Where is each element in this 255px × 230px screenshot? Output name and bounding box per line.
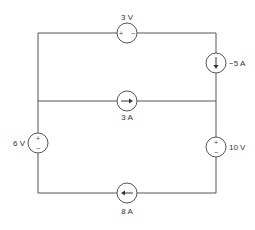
current-source-3a: 3 A: [117, 91, 137, 122]
circuit-diagram: + − 3 V −5 A 3 A + − 6 V + − 10 V: [0, 0, 255, 230]
label-neg5a: −5 A: [229, 59, 246, 68]
minus-sign: −: [214, 149, 218, 156]
label-8a: 8 A: [121, 207, 133, 216]
voltage-source-6v: + − 6 V: [13, 133, 48, 153]
voltage-source-10v: + − 10 V: [206, 137, 246, 157]
voltage-source-3v: + − 3 V: [117, 13, 137, 43]
plus-sign: +: [36, 135, 40, 142]
circuit-svg: + − 3 V −5 A 3 A + − 6 V + − 10 V: [0, 0, 255, 230]
plus-sign: +: [214, 139, 218, 146]
minus-sign: −: [131, 30, 135, 37]
label-3a: 3 A: [121, 113, 133, 122]
plus-sign: +: [119, 30, 123, 37]
minus-sign: −: [36, 145, 40, 152]
label-3v: 3 V: [121, 13, 134, 22]
label-6v: 6 V: [13, 139, 26, 148]
label-10v: 10 V: [229, 143, 246, 152]
current-source-neg5a: −5 A: [206, 53, 246, 73]
current-source-8a: 8 A: [117, 183, 137, 216]
